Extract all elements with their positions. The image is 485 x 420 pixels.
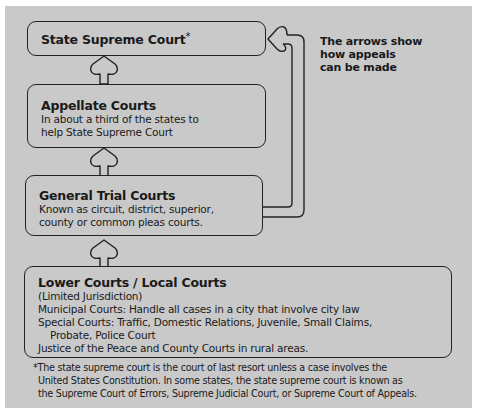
general-trial-courts-box: General Trial Courts Known as circuit, d… [25, 175, 263, 236]
footnote-line: the Supreme Court of Errors, Supreme Jud… [33, 387, 417, 400]
lower-local-courts-box: Lower Courts / Local Courts (Limited Jur… [24, 266, 452, 358]
return-arrow-icon [262, 27, 304, 217]
box-line: county or common pleas courts. [39, 216, 262, 229]
footnote-marker: * [186, 31, 191, 42]
note-line: The arrows show [320, 35, 422, 48]
box-title: State Supreme Court [41, 32, 186, 47]
box-line: Special Courts: Traffic, Domestic Relati… [38, 316, 451, 329]
note-line: how appeals [320, 48, 422, 61]
box-line: (Limited Jurisdiction) [38, 290, 451, 303]
box-title: Appellate Courts [41, 98, 265, 113]
box-line: Justice of the Peace and County Courts i… [38, 342, 451, 355]
footnote: *The state supreme court is the court of… [33, 361, 417, 400]
up-arrow-icon [91, 56, 118, 84]
box-line: help State Supreme Court [41, 126, 265, 139]
state-supreme-court-box: State Supreme Court* [27, 21, 266, 56]
box-line: Municipal Courts: Handle all cases in a … [38, 303, 451, 316]
box-title: Lower Courts / Local Courts [38, 275, 451, 290]
box-line: Probate, Police Court [38, 329, 451, 342]
arrows-note: The arrows show how appeals can be made [320, 35, 422, 74]
up-arrow-icon [91, 240, 118, 268]
note-line: can be made [320, 61, 422, 74]
box-title: General Trial Courts [39, 188, 262, 203]
box-line: In about a third of the states to [41, 113, 265, 126]
footnote-line: United States Constitution. In some stat… [33, 374, 417, 387]
appellate-courts-box: Appellate Courts In about a third of the… [27, 84, 266, 148]
up-arrow-icon [91, 148, 118, 176]
box-line: Known as circuit, district, superior, [39, 203, 262, 216]
footnote-line: *The state supreme court is the court of… [33, 361, 417, 374]
